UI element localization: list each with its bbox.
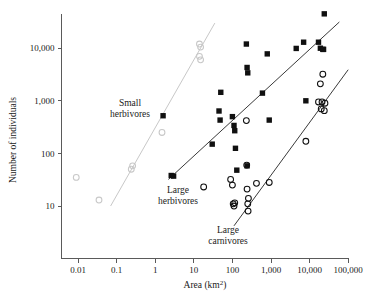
x-tick-label: 1,000 (261, 265, 282, 275)
data-point-circle (266, 180, 272, 186)
data-point-square (210, 141, 215, 146)
data-point-square (217, 117, 222, 122)
data-point-circle (246, 195, 252, 201)
x-tick-label: 1 (153, 265, 158, 275)
data-point-circle (198, 57, 204, 63)
data-point-circle (317, 81, 323, 87)
x-tick-label: 0.1 (111, 265, 122, 275)
x-tick-label: 100,000 (334, 265, 364, 275)
data-point-circle (159, 130, 165, 136)
small-herbivores-label: herbivores (110, 109, 150, 119)
data-point-square (260, 90, 265, 95)
data-point-square (322, 11, 327, 16)
tick-labels: 101001,00010,0000.010.11101001,00010,000… (30, 43, 364, 274)
y-tick-label: 100 (41, 149, 55, 159)
data-point-square (233, 146, 238, 151)
data-point-square (171, 173, 176, 178)
data-point-square (244, 65, 249, 70)
data-point-circle (96, 197, 102, 203)
data-point-circle (245, 208, 251, 214)
data-point-square (234, 167, 239, 172)
data-point-square (301, 40, 306, 45)
data-point-square (265, 51, 270, 56)
x-axis-title: Area (km2) (184, 279, 227, 292)
data-point-square (303, 98, 308, 103)
large-carnivores-label: carnivores (208, 236, 248, 246)
y-tick-label: 10 (46, 201, 56, 211)
small-herbivores-label: Small (119, 98, 142, 108)
data-point-square (294, 46, 299, 51)
x-tick-label: 100 (226, 265, 240, 275)
y-tick-label: 10,000 (30, 43, 55, 53)
chart-figure: 101001,00010,0000.010.11101001,00010,000… (0, 0, 375, 300)
data-point-circle (201, 184, 207, 190)
data-point-circle (228, 177, 234, 183)
trend-line (234, 70, 348, 226)
data-point-circle (320, 71, 326, 77)
data-point-circle (243, 118, 249, 124)
x-tick-label: 10,000 (297, 265, 322, 275)
data-point-square (231, 123, 236, 128)
x-axis-title-close-paren: ) (223, 280, 226, 291)
y-axis-title: Number of individuals (8, 97, 18, 183)
data-point-square (216, 108, 221, 113)
data-point-circle (197, 53, 203, 59)
data-point-square (244, 41, 249, 46)
data-point-circle (73, 174, 79, 180)
data-point-square (245, 70, 250, 75)
data-point-square (218, 90, 223, 95)
data-point-square (160, 113, 165, 118)
y-tick-label: 1,000 (34, 96, 55, 106)
data-point-circle (230, 182, 236, 188)
trend-lines (111, 22, 349, 226)
data-point-square (316, 40, 321, 45)
data-point-square (232, 128, 237, 133)
x-tick-label: 10 (189, 265, 199, 275)
x-tick-label: 0.01 (70, 265, 86, 275)
data-point-square (267, 117, 272, 122)
large-herbivores-label: Large (167, 185, 189, 195)
trend-line (168, 22, 339, 179)
large-herbivores-label: herbivores (158, 196, 198, 206)
data-point-circle (244, 186, 250, 192)
data-point-square (230, 114, 235, 119)
data-point-circle (303, 138, 309, 144)
data-point-circle (254, 180, 260, 186)
large-carnivores-label: Large (217, 225, 239, 235)
scatter-plot: 101001,00010,0000.010.11101001,00010,000… (0, 0, 375, 300)
data-point-square (321, 47, 326, 52)
